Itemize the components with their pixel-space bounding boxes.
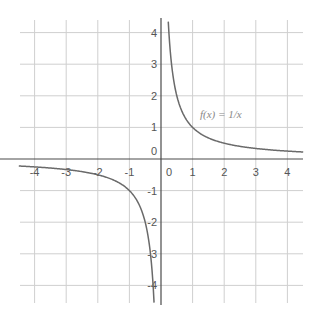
x-tick-label: -1 [125,166,135,178]
x-tick-label: 0 [166,166,172,178]
y-tick-label: 3 [151,58,157,70]
x-tick-label: 4 [284,166,290,178]
y-tick-label: 1 [151,121,157,133]
curve-negative-branch [19,166,154,303]
x-tick-label: 1 [190,166,196,178]
x-tick-label: -3 [61,166,71,178]
y-tick-label: -2 [147,216,157,228]
function-label: f(x) = 1/x [200,108,242,121]
function-plot: -4-3-2-101234 -4-3-2-101234 f(x) = 1/x [0,0,317,321]
y-tick-label: -3 [147,248,157,260]
y-tick-label: 2 [151,90,157,102]
curve-positive-branch [168,22,303,152]
x-tick-label: 2 [221,166,227,178]
y-tick-label: 0 [151,145,157,157]
x-tick-labels: -4-3-2-101234 [30,166,291,178]
y-tick-label: -1 [147,185,157,197]
x-tick-label: 3 [253,166,259,178]
y-tick-label: 4 [151,27,157,39]
